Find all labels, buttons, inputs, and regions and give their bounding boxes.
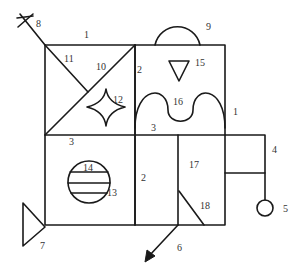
label-10: 10	[96, 61, 106, 72]
label-18: 18	[200, 200, 210, 211]
label-17: 17	[189, 159, 199, 170]
label-4: 4	[272, 144, 277, 155]
label-11: 11	[64, 53, 74, 64]
label-6: 6	[177, 242, 182, 253]
dome-9	[155, 27, 200, 45]
label-12: 12	[113, 94, 123, 105]
side-attachment-4	[225, 135, 273, 216]
label-16: 16	[173, 96, 183, 107]
triangle-icon-15	[169, 61, 189, 81]
label-5: 5	[283, 203, 288, 214]
label-9: 9	[206, 21, 211, 32]
label-14: 14	[83, 162, 93, 173]
main-frame	[45, 45, 225, 225]
diagonal-10	[45, 45, 135, 135]
arrow-6	[145, 225, 178, 262]
label-3-top: 3	[151, 122, 156, 133]
label-2-top: 2	[137, 64, 142, 75]
label-3-left: 3	[69, 136, 74, 147]
label-15: 15	[195, 57, 205, 68]
label-13: 13	[107, 187, 117, 198]
label-1-right: 1	[233, 106, 238, 117]
label-2-bottom: 2	[141, 172, 146, 183]
label-7: 7	[40, 240, 45, 251]
label-1-top: 1	[84, 29, 89, 40]
label-8: 8	[36, 18, 41, 29]
circle-5	[257, 200, 273, 216]
schematic-diagram: 8 1 11 10 2 12 9 15 16 1 3 3 4 17 14 2 1…	[0, 0, 297, 276]
